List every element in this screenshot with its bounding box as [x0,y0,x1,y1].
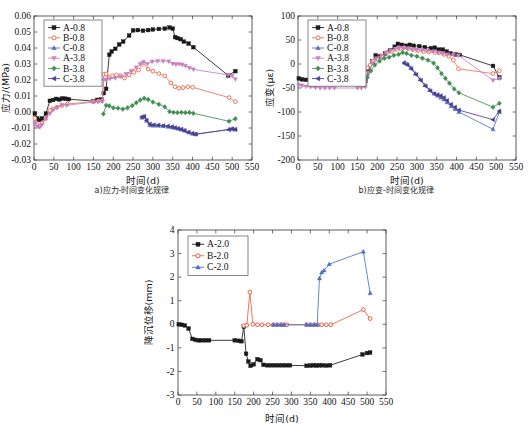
data-point-marker [329,323,333,327]
data-point-marker [40,117,44,121]
data-point-marker [196,242,200,246]
svg-text:400: 400 [185,162,200,172]
data-point-marker [33,112,37,116]
data-point-marker [121,40,125,44]
svg-text:0: 0 [170,319,175,329]
data-point-marker [104,87,108,91]
data-point-marker [169,81,173,85]
data-point-marker [136,28,140,32]
data-point-marker [305,364,309,368]
data-point-marker [127,34,131,38]
svg-text:250: 250 [390,162,405,172]
data-point-marker [252,363,256,367]
data-point-marker [113,47,117,51]
data-point-marker [441,48,445,52]
panel-b-plot: 050100150200250300350400450500550-200-15… [264,6,528,206]
panel-a-stress-time: 050100150200250300350400450500550-0.03-0… [0,6,264,206]
svg-text:100: 100 [331,162,346,172]
svg-text:250: 250 [265,397,280,407]
svg-text:150: 150 [86,162,101,172]
svg-text:0.00: 0.00 [14,107,31,117]
svg-text:3: 3 [170,249,175,259]
svg-text:4: 4 [170,225,175,235]
data-point-marker [269,363,273,367]
legend: A-0.8B-0.8C-0.8A-3.8B-3.8C-3.8 [44,20,102,86]
svg-text:50: 50 [313,162,323,172]
data-point-marker [260,323,264,327]
data-point-marker [281,363,285,367]
svg-text:550: 550 [379,397,394,407]
data-point-marker [408,43,412,47]
svg-text:-1: -1 [167,343,175,353]
svg-text:50: 50 [286,35,296,45]
data-point-marker [452,58,456,62]
legend-label: C-3.8 [63,73,85,84]
data-point-marker [123,76,127,80]
legend-label: A-2.0 [207,238,229,249]
svg-text:2: 2 [170,272,175,282]
legend-label: C-2.0 [207,261,229,272]
svg-text:0: 0 [296,162,301,172]
panel-a-plot: 050100150200250300350400450500550-0.03-0… [0,6,264,206]
data-point-marker [361,308,365,312]
svg-text:100: 100 [67,162,82,172]
svg-text:550: 550 [509,162,524,172]
svg-text:50: 50 [192,397,202,407]
data-point-marker [300,78,304,82]
data-point-marker [137,68,141,72]
svg-text:100: 100 [281,11,296,21]
svg-text:-0.01: -0.01 [11,123,31,133]
data-point-marker [117,43,121,47]
data-point-marker [173,85,177,89]
svg-text:0.02: 0.02 [14,75,31,85]
data-point-marker [187,42,191,46]
data-point-marker [52,36,56,40]
data-point-marker [186,85,190,89]
data-point-marker [104,72,108,76]
svg-text:-0.03: -0.03 [11,155,31,165]
svg-text:500: 500 [225,162,240,172]
legend-label: B-2.0 [207,250,229,261]
data-point-marker [266,323,270,327]
data-point-marker [324,364,328,368]
data-point-marker [259,358,263,362]
svg-text:150: 150 [228,397,243,407]
data-point-marker [203,338,207,342]
data-point-marker [146,28,150,32]
svg-text:400: 400 [449,162,464,172]
data-point-marker [368,351,372,355]
data-point-marker [246,360,250,364]
panel-c-plot: 050100150200250300350400450500550-3-2-10… [140,218,400,447]
svg-text:0.06: 0.06 [14,11,31,21]
data-point-marker [396,42,400,46]
data-point-marker [67,97,71,101]
data-point-marker [196,254,200,258]
x-axis-title: 时间(d) [390,175,423,186]
data-point-marker [265,363,269,367]
svg-text:450: 450 [469,162,484,172]
data-point-marker [33,117,37,121]
data-point-marker [141,29,145,33]
svg-text:0: 0 [32,162,37,172]
data-point-marker [284,363,288,367]
svg-text:1: 1 [170,296,175,306]
data-point-marker [115,73,119,77]
svg-text:0.05: 0.05 [14,27,31,37]
data-point-marker [368,317,372,321]
svg-text:400: 400 [322,397,337,407]
svg-text:200: 200 [370,162,385,172]
x-axis-title: 时间(d) [126,175,159,186]
legend: A-0.8B-0.8C-0.8A-3.8B-3.8C-3.8 [308,20,366,86]
svg-text:-50: -50 [282,83,295,93]
svg-text:450: 450 [341,397,356,407]
legend-label: C-3.8 [327,73,349,84]
svg-text:350: 350 [303,397,318,407]
svg-text:0: 0 [176,397,181,407]
svg-text:500: 500 [489,162,504,172]
data-point-marker [320,323,324,327]
data-point-marker [240,339,244,343]
svg-text:0.04: 0.04 [14,43,31,53]
data-point-marker [191,85,195,89]
data-point-marker [127,73,131,77]
figure-root: 050100150200250300350400450500550-0.03-0… [0,0,528,447]
